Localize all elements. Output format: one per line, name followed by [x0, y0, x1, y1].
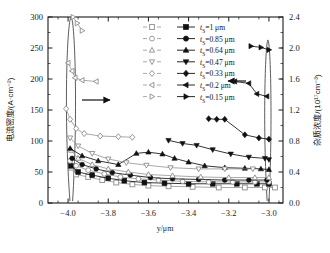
legend-marker-open-0 — [150, 25, 155, 30]
x-tick-label: −3.0 — [261, 208, 276, 218]
y-right-tick-label: 0.4 — [289, 167, 300, 177]
data-point-1-filled — [80, 162, 85, 167]
x-tick-label: −3.6 — [141, 208, 156, 218]
y-axis-label-right: 杂质浓度/(10¹⁷cm⁻³) — [312, 74, 322, 146]
x-tick-label: −3.4 — [181, 208, 197, 218]
data-point-0-filled — [186, 181, 191, 186]
plot-background — [0, 0, 330, 253]
data-point-1-filled — [94, 167, 99, 172]
data-point-1-open — [86, 168, 91, 173]
y-left-tick-label: 300 — [30, 12, 43, 22]
y-left-tick-label: 250 — [30, 43, 43, 53]
y-axis-label-left: 电流密度/(A·cm⁻²) — [5, 77, 15, 142]
data-point-1-filled — [70, 156, 75, 161]
data-point-1-open — [118, 175, 123, 180]
y-right-tick-label: 1.2 — [289, 105, 300, 115]
y-left-tick-label: 0 — [39, 198, 43, 208]
y-right-tick-label: 0.0 — [289, 198, 300, 208]
data-point-0-open — [130, 182, 135, 187]
data-point-0-filled — [162, 181, 167, 186]
data-point-0-open — [216, 185, 221, 190]
data-point-0-filled — [76, 170, 81, 175]
y-right-tick-label: 2.0 — [289, 43, 300, 53]
y-left-tick-label: 200 — [30, 74, 43, 84]
figure-container: −4.0−3.8−3.6−3.4−3.2−3.00501001502002503… — [0, 0, 330, 253]
data-point-0-filled — [122, 178, 127, 183]
x-tick-label: −3.8 — [101, 208, 116, 218]
data-point-0-filled — [90, 173, 95, 178]
y-left-tick-label: 50 — [35, 167, 44, 177]
data-point-0-open — [273, 185, 278, 190]
x-tick-label: −4.0 — [60, 208, 75, 218]
y-right-tick-label: 1.6 — [289, 74, 300, 84]
data-point-1-open — [74, 163, 79, 168]
data-point-0-open — [114, 180, 119, 185]
data-point-1-filled — [246, 178, 251, 183]
data-point-1-open — [102, 171, 107, 176]
data-point-0-filled — [69, 163, 74, 168]
legend-marker-filled-1 — [183, 36, 188, 41]
x-axis-label: y/μm — [157, 224, 175, 233]
data-point-1-open — [180, 179, 185, 184]
y-left-tick-label: 100 — [30, 136, 43, 146]
y-right-tick-label: 0.8 — [289, 136, 300, 146]
data-point-0-open — [242, 185, 247, 190]
chart-canvas: −4.0−3.8−3.6−3.4−3.2−3.00501001502002503… — [0, 0, 330, 253]
legend-marker-filled-0 — [183, 24, 188, 29]
data-point-0-filled — [142, 180, 147, 185]
data-point-0-open — [100, 178, 105, 183]
y-right-tick-label: 2.4 — [289, 12, 300, 22]
legend-marker-open-1 — [150, 36, 155, 41]
y-left-tick-label: 150 — [30, 105, 43, 115]
data-point-1-open — [206, 180, 211, 185]
data-point-0-filled — [106, 176, 111, 181]
data-point-1-open — [136, 176, 141, 181]
x-tick-label: −3.2 — [221, 208, 236, 218]
